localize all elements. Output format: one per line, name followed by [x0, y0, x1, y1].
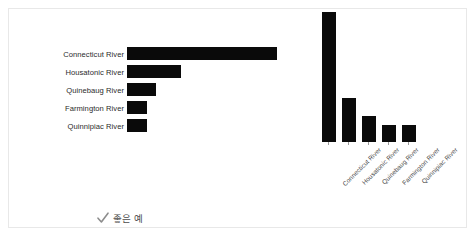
- hbar-row: Quinnipiac River: [8, 118, 288, 136]
- vbar-tick-mark: [348, 142, 349, 145]
- vbar-fill: [382, 125, 396, 142]
- hbar-category-label: Quinebaug River: [0, 84, 124, 97]
- vbar-column: [322, 12, 336, 142]
- vertical-bar-plot-area: [322, 12, 432, 142]
- vbar-tick: Housatonic River: [342, 142, 356, 146]
- vbar-tick: Quinebaug River: [362, 142, 376, 146]
- vbar-tick-mark: [328, 142, 329, 145]
- hbar-category-label: Housatonic River: [0, 66, 124, 79]
- hbar-row: Quinebaug River: [8, 82, 288, 100]
- hbar-track: [127, 101, 277, 114]
- vbar-tick-mark: [408, 142, 409, 145]
- hbar-track: [127, 65, 277, 78]
- hbar-row: Housatonic River: [8, 64, 288, 82]
- vbar-fill: [402, 125, 416, 142]
- hbar-fill: [127, 119, 147, 132]
- hbar-category-label: Quinnipiac River: [0, 120, 124, 133]
- vbar-fill: [362, 116, 376, 142]
- hbar-track: [127, 83, 277, 96]
- horizontal-bar-chart: Connecticut RiverHousatonic RiverQuineba…: [8, 46, 288, 146]
- vertical-bar-chart: [322, 12, 432, 142]
- hbar-category-label: Farmington River: [0, 102, 124, 115]
- vbar-tick-mark: [368, 142, 369, 145]
- hbar-fill: [127, 65, 181, 78]
- vbar-tick: Connecticut River: [322, 142, 336, 146]
- vbar-tick: Farmington River: [382, 142, 396, 146]
- vbar-column: [362, 12, 376, 142]
- hbar-category-label: Connecticut River: [0, 48, 124, 61]
- good-example-caption: 좋은 예: [96, 211, 143, 225]
- vertical-bar-axis-labels: Connecticut RiverHousatonic RiverQuineba…: [322, 142, 462, 198]
- hbar-track: [127, 47, 277, 60]
- vbar-tick-mark: [388, 142, 389, 145]
- hbar-row: Connecticut River: [8, 46, 288, 64]
- vbar-column: [342, 12, 356, 142]
- vbar-column: [382, 12, 396, 142]
- hbar-track: [127, 119, 277, 132]
- figure-root: Connecticut RiverHousatonic RiverQuineba…: [0, 0, 475, 237]
- vbar-column: [402, 12, 416, 142]
- vbar-fill: [322, 12, 336, 142]
- vbar-fill: [342, 98, 356, 142]
- good-example-panel: Connecticut RiverHousatonic RiverQuineba…: [8, 8, 288, 228]
- hbar-fill: [127, 47, 277, 60]
- check-icon: [96, 211, 110, 225]
- vbar-tick: Quinnipiac River: [402, 142, 416, 146]
- hbar-row: Farmington River: [8, 100, 288, 118]
- good-example-caption-label: 좋은 예: [113, 211, 143, 225]
- hbar-fill: [127, 101, 147, 114]
- needs-improvement-panel: Connecticut RiverHousatonic RiverQuineba…: [288, 8, 467, 228]
- hbar-fill: [127, 83, 156, 96]
